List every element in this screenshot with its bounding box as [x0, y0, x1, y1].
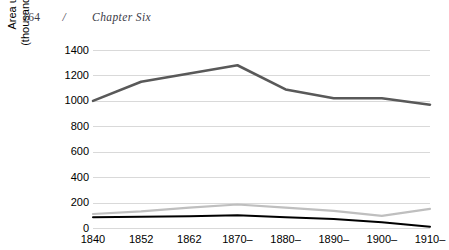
- y-tick-label: 800: [46, 121, 89, 132]
- x-axis-tick-labels: 1840185218621870–1880–1890–1900–1910–: [93, 232, 438, 250]
- gridline: [93, 228, 430, 229]
- x-tick-label: 1870–: [213, 232, 261, 246]
- x-tick-label: 1840: [69, 232, 117, 246]
- y-axis-title: Area under vines (thousands of hectares): [6, 0, 32, 72]
- series-line-series-light-gray: [93, 204, 430, 215]
- y-tick-label: 1000: [46, 95, 89, 106]
- y-tick-label: 600: [46, 146, 89, 157]
- x-tick-label: 1900–: [358, 232, 406, 246]
- x-tick-label: 1862: [165, 232, 213, 246]
- y-axis-title-line-1: Area under vines: [6, 0, 19, 30]
- running-head: 164 / Chapter Six: [0, 0, 449, 34]
- plot-area: [93, 50, 430, 228]
- y-tick-label: 400: [46, 172, 89, 183]
- y-tick-label: 200: [46, 197, 89, 208]
- chapter-title: Chapter Six: [92, 11, 151, 23]
- running-head-separator: /: [62, 11, 66, 23]
- series-line-series-black: [93, 215, 430, 226]
- x-tick-label: 1852: [117, 232, 165, 246]
- x-tick-label: 1880–: [262, 232, 310, 246]
- series-line-series-dark-gray: [93, 65, 430, 104]
- y-tick-label: 1200: [46, 70, 89, 81]
- series-lines: [93, 50, 430, 228]
- x-tick-label: 1910–: [406, 232, 449, 246]
- y-tick-label: 1400: [46, 45, 89, 56]
- y-axis-title-line-2: (thousands of hectares): [19, 0, 32, 46]
- x-tick-label: 1890–: [310, 232, 358, 246]
- y-axis-tick-labels: 0200400600800100012001400: [46, 34, 89, 234]
- line-chart-figure: Area under vines (thousands of hectares)…: [0, 34, 449, 250]
